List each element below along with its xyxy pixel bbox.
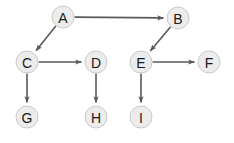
graph-svg: ABCDEFGHI	[0, 0, 234, 143]
node-h[interactable]: H	[85, 106, 107, 128]
edge-a-to-c	[36, 26, 56, 51]
node-b[interactable]: B	[167, 7, 189, 29]
node-c[interactable]: C	[16, 51, 38, 73]
node-label-b: B	[173, 11, 182, 27]
node-label-i: I	[139, 110, 143, 126]
node-label-h: H	[91, 110, 101, 126]
node-g[interactable]: G	[16, 106, 38, 128]
node-label-d: D	[91, 55, 101, 71]
edge-a-to-b	[74, 17, 163, 18]
node-i[interactable]: I	[130, 106, 152, 128]
diagram-canvas: ABCDEFGHI	[0, 0, 234, 143]
node-label-g: G	[22, 110, 33, 126]
node-d[interactable]: D	[85, 51, 107, 73]
nodes-layer: ABCDEFGHI	[16, 6, 220, 128]
node-label-c: C	[22, 55, 32, 71]
node-f[interactable]: F	[198, 51, 220, 73]
node-e[interactable]: E	[130, 51, 152, 73]
node-a[interactable]: A	[52, 6, 74, 28]
edge-b-to-e	[150, 27, 170, 51]
node-label-e: E	[136, 55, 145, 71]
node-label-f: F	[205, 55, 214, 71]
edges-layer	[27, 17, 195, 102]
node-label-a: A	[58, 10, 68, 26]
